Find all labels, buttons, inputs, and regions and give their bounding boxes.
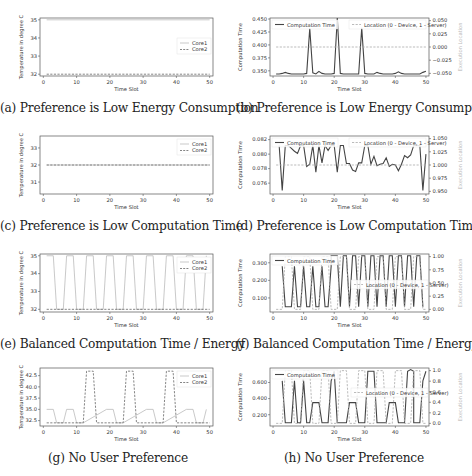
svg-text:0.400: 0.400: [252, 395, 267, 401]
svg-text:Computation Time: Computation Time: [287, 258, 335, 265]
svg-text:20: 20: [331, 315, 338, 321]
svg-text:40: 40: [392, 429, 399, 435]
svg-text:0: 0: [42, 79, 45, 85]
caption-h: (h) No User Preference: [236, 451, 472, 465]
svg-text:35.0: 35.0: [25, 406, 37, 412]
svg-text:0.2: 0.2: [433, 410, 441, 416]
svg-text:40: 40: [392, 315, 399, 321]
chart-d: 01020304050Time Slot0.0760.0780.0800.082…: [236, 118, 472, 218]
svg-text:Time Slot: Time Slot: [336, 436, 361, 442]
chart-e: 01020304050Time Slot32333435Temperature …: [0, 236, 236, 336]
svg-text:10: 10: [300, 197, 307, 203]
svg-text:Time Slot: Time Slot: [113, 436, 138, 442]
svg-text:0.00: 0.00: [433, 306, 445, 312]
svg-text:Time Slot: Time Slot: [113, 204, 138, 210]
caption-a: (a) Preference is Low Energy Consumption: [0, 101, 236, 115]
svg-text:20: 20: [107, 79, 114, 85]
svg-text:1.00: 1.00: [433, 253, 445, 259]
svg-text:20: 20: [107, 197, 114, 203]
svg-text:0.375: 0.375: [252, 55, 267, 61]
svg-text:0.975: 0.975: [433, 175, 448, 181]
svg-text:50: 50: [206, 315, 213, 321]
panel-f: 01020304050Time Slot0.1000.2000.300Compu…: [236, 236, 472, 354]
svg-text:0.082: 0.082: [252, 136, 267, 142]
svg-text:Time Slot: Time Slot: [113, 322, 138, 328]
svg-text:40: 40: [173, 79, 180, 85]
svg-text:0.100: 0.100: [252, 295, 267, 301]
svg-text:32.5: 32.5: [25, 417, 37, 423]
chart-b: 01020304050Time Slot0.3500.3750.4000.425…: [236, 0, 472, 100]
caption-e: (e) Balanced Computation Time / Energy: [0, 337, 236, 351]
svg-text:0.25: 0.25: [433, 293, 445, 299]
svg-text:0.080: 0.080: [252, 151, 267, 157]
svg-text:30: 30: [140, 79, 147, 85]
svg-text:10: 10: [73, 197, 80, 203]
svg-text:0.200: 0.200: [252, 412, 267, 418]
svg-text:0.350: 0.350: [252, 68, 267, 74]
svg-text:Computation Time: Computation Time: [287, 140, 335, 147]
svg-text:0.400: 0.400: [252, 42, 267, 48]
svg-text:Time Slot: Time Slot: [336, 86, 361, 92]
svg-text:20: 20: [107, 429, 114, 435]
svg-text:40: 40: [173, 197, 180, 203]
svg-text:0: 0: [271, 429, 274, 435]
svg-text:37.5: 37.5: [25, 395, 37, 401]
svg-text:30: 30: [361, 79, 368, 85]
svg-text:0.076: 0.076: [252, 180, 267, 186]
svg-text:0.025: 0.025: [433, 31, 448, 37]
chart-h: 01020304050Time Slot0.2000.4000.600Compu…: [236, 350, 472, 450]
panel-d: 01020304050Time Slot0.0760.0780.0800.082…: [236, 118, 472, 236]
svg-text:Computation Time: Computation Time: [237, 373, 244, 421]
svg-text:50: 50: [206, 429, 213, 435]
svg-text:40: 40: [173, 315, 180, 321]
svg-text:Temperature in degree C: Temperature in degree C: [18, 250, 25, 316]
svg-text:30: 30: [140, 429, 147, 435]
svg-text:Execution Location: Execution Location: [457, 140, 463, 189]
svg-text:0.0: 0.0: [433, 420, 441, 426]
svg-text:50: 50: [423, 429, 430, 435]
svg-text:10: 10: [300, 315, 307, 321]
svg-text:20: 20: [331, 429, 338, 435]
svg-text:40.0: 40.0: [25, 384, 37, 390]
svg-text:42.5: 42.5: [25, 372, 37, 378]
svg-text:Location (0 - Device, 1 - Serv: Location (0 - Device, 1 - Server): [366, 282, 449, 288]
svg-text:50: 50: [206, 79, 213, 85]
svg-text:35: 35: [30, 17, 37, 23]
svg-text:Core2: Core2: [192, 265, 207, 271]
svg-text:33: 33: [30, 145, 37, 151]
svg-text:Location (0 - Device, 1 - Serv: Location (0 - Device, 1 - Server): [366, 390, 449, 396]
svg-text:0.8: 0.8: [433, 378, 441, 384]
svg-text:50: 50: [423, 79, 430, 85]
svg-text:Temperature in degree C: Temperature in degree C: [18, 132, 25, 198]
svg-text:50: 50: [423, 315, 430, 321]
svg-text:10: 10: [300, 79, 307, 85]
svg-text:10: 10: [73, 79, 80, 85]
panel-a: 01020304050Time Slot32333435Temperature …: [0, 0, 236, 118]
svg-text:32: 32: [30, 71, 37, 77]
svg-text:35: 35: [30, 253, 37, 259]
svg-text:Core2: Core2: [192, 379, 207, 385]
svg-text:Time Slot: Time Slot: [113, 86, 138, 92]
svg-text:20: 20: [331, 79, 338, 85]
svg-text:Execution Location: Execution Location: [457, 258, 463, 307]
panel-e: 01020304050Time Slot32333435Temperature …: [0, 236, 236, 354]
svg-text:40: 40: [173, 429, 180, 435]
caption-d: (d) Preference is Low Computation Time: [236, 219, 472, 233]
svg-text:0: 0: [271, 79, 274, 85]
svg-text:Computation Time: Computation Time: [287, 372, 335, 379]
svg-text:34: 34: [30, 35, 37, 41]
svg-text:20: 20: [107, 315, 114, 321]
svg-text:40: 40: [392, 197, 399, 203]
svg-text:30: 30: [361, 429, 368, 435]
caption-b: (b) Preference is Low Energy Consumption: [236, 101, 472, 115]
svg-text:−0.050: −0.050: [433, 70, 452, 76]
svg-text:32: 32: [30, 162, 37, 168]
svg-text:Location (0 - Device, 1 - Serv: Location (0 - Device, 1 - Server): [364, 22, 447, 28]
svg-text:10: 10: [73, 315, 80, 321]
svg-text:Time Slot: Time Slot: [336, 204, 361, 210]
svg-text:1.025: 1.025: [433, 149, 448, 155]
svg-text:0: 0: [271, 315, 274, 321]
svg-text:33: 33: [30, 53, 37, 59]
svg-text:1.000: 1.000: [433, 162, 448, 168]
svg-text:Computation Time: Computation Time: [237, 259, 244, 307]
